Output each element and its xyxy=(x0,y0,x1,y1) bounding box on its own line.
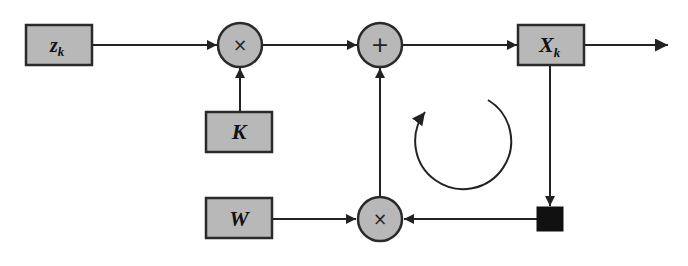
plus-icon: + xyxy=(371,32,389,57)
block-x-label: X xyxy=(538,32,555,57)
multiply-icon: × xyxy=(233,35,247,55)
block-x-subscript: k xyxy=(554,45,561,60)
block-w-label: W xyxy=(229,206,250,231)
block-z-label: z xyxy=(49,34,58,56)
sum-node: + xyxy=(358,23,402,67)
multiply-node-bottom: × xyxy=(358,197,402,241)
block-z-subscript: k xyxy=(58,44,65,59)
feedback-loop-arrow-icon xyxy=(415,100,511,189)
multiply-node-top: × xyxy=(218,23,262,67)
delay-block xyxy=(537,207,563,231)
block-diagram: zk K W Xk × + × xyxy=(0,0,688,266)
block-w: W xyxy=(206,198,272,238)
block-z: zk xyxy=(26,25,92,65)
multiply-icon: × xyxy=(373,209,387,229)
block-k: K xyxy=(206,112,272,152)
block-x: Xk xyxy=(518,25,584,65)
block-k-label: K xyxy=(231,119,248,144)
